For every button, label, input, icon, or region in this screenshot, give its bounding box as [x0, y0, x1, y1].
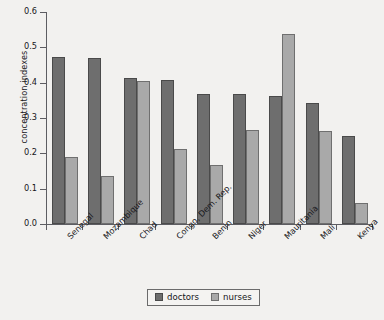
bar-nurses [246, 130, 259, 224]
bar-nurses [355, 203, 368, 224]
legend-item-doctors: doctors [155, 292, 199, 302]
legend-swatch-nurses-icon [211, 293, 219, 301]
bar-doctors [233, 94, 246, 224]
bar-group [300, 12, 336, 224]
y-tick-label: 0.3 [24, 112, 37, 122]
legend-label-nurses: nurses [223, 292, 252, 302]
bar-doctors [161, 80, 174, 225]
bar-nurses [101, 176, 114, 224]
bars-layer [46, 12, 372, 224]
y-tick-label: 0.4 [24, 77, 37, 87]
bar-group [227, 12, 263, 224]
bar-doctors [269, 96, 282, 224]
y-tick-label: 0.2 [24, 147, 37, 157]
y-tick-label: 0.5 [24, 41, 37, 51]
bar-group [336, 12, 372, 224]
bar-doctors [342, 136, 355, 224]
legend-label-doctors: doctors [167, 292, 199, 302]
bar-group [118, 12, 154, 224]
chart-legend: doctors nurses [147, 289, 260, 306]
legend-item-nurses: nurses [211, 292, 252, 302]
bar-doctors [88, 58, 101, 224]
bar-nurses [174, 149, 187, 224]
legend-swatch-doctors-icon [155, 293, 163, 301]
y-tick-label: 0.0 [24, 218, 37, 228]
bar-doctors [52, 57, 65, 224]
y-tick-label: 0.6 [24, 6, 37, 16]
x-tick [46, 224, 47, 230]
plot-area: 0.00.10.20.30.40.50.6 SenegalMozambiqueC… [46, 12, 372, 225]
x-label: Mali [318, 222, 337, 241]
bar-group [82, 12, 118, 224]
bar-group [46, 12, 82, 224]
bar-nurses [65, 157, 78, 224]
bar-nurses [282, 34, 295, 224]
x-axis-line [46, 224, 372, 225]
bar-chart: concentration indexes 0.00.10.20.30.40.5… [0, 0, 384, 320]
bar-group [263, 12, 299, 224]
bar-group [155, 12, 191, 224]
bar-nurses [319, 131, 332, 224]
y-tick-label: 0.1 [24, 183, 37, 193]
